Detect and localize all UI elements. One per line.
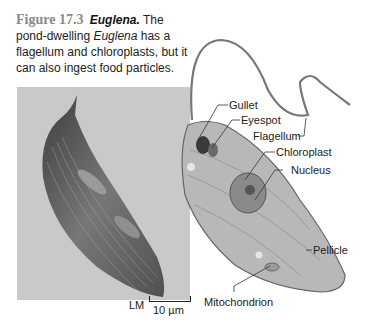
euglena-illustration (0, 0, 367, 320)
label-gullet: Gullet (229, 99, 258, 111)
label-eyespot: Eyespot (241, 114, 281, 126)
label-nucleus: Nucleus (291, 164, 331, 176)
eyespot-shape (196, 136, 210, 154)
label-flagellum: Flagellum (253, 130, 301, 142)
label-mitochondrion: Mitochondrion (204, 296, 273, 308)
label-chloroplast: Chloroplast (276, 146, 332, 158)
label-pellicle: Pellicle (313, 244, 348, 256)
flagellum-strand (191, 40, 350, 120)
